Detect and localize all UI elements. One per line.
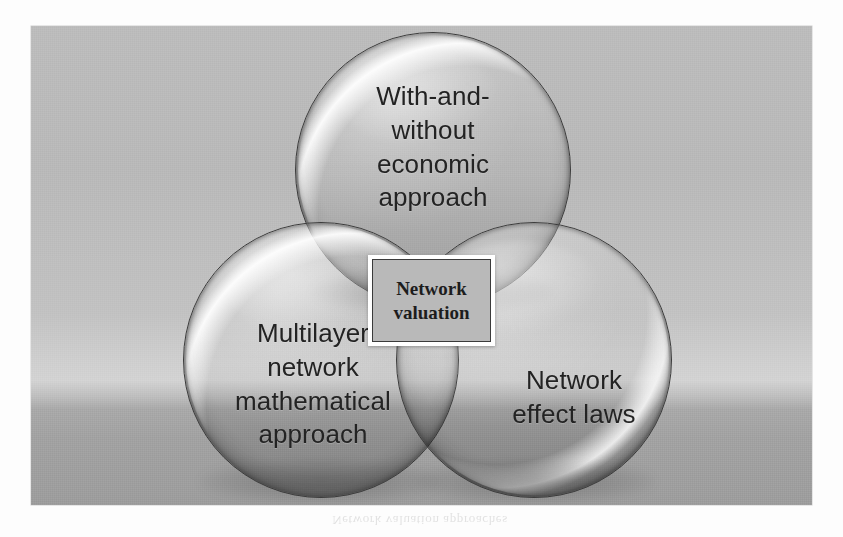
scanned-page: With-and- without economic approach Mult… [0,0,843,537]
figure-panel: With-and- without economic approach Mult… [31,26,812,505]
center-callout-label: Network valuation [393,277,469,323]
bleed-through-ghost-text: Network valuation approaches [120,512,720,528]
circle-label-top: With-and- without economic approach [323,80,543,215]
center-callout-inner-border: Network valuation [372,259,491,342]
circle-label-right: Network effect laws [480,364,668,432]
center-callout-box[interactable]: Network valuation [368,255,495,346]
